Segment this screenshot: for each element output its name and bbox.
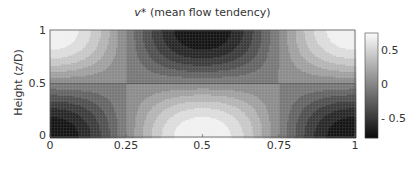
chart-title: v* (mean flow tendency) [50, 6, 355, 19]
y-tick-0.5: 0.5 [24, 77, 46, 90]
y-tick-1: 1 [24, 24, 46, 37]
plot-area [50, 30, 356, 138]
x-tick-0.5: 0.5 [182, 139, 222, 152]
x-tick-0.25: 0.25 [106, 139, 146, 152]
colorbar-tick-0.5: 0.5 [381, 44, 399, 57]
x-tick-1: 1 [335, 139, 375, 152]
title-symbol: v* [134, 6, 146, 19]
y-axis-label: Height (z/D) [12, 43, 25, 123]
x-tick-0: 0 [30, 139, 70, 152]
colorbar-tick-neg0.5: - 0.5 [381, 112, 406, 125]
title-text: (mean flow tendency) [150, 6, 271, 19]
colorbar-tick-0: 0 [381, 78, 388, 91]
x-tick-0.75: 0.75 [259, 139, 299, 152]
colorbar [365, 33, 378, 138]
